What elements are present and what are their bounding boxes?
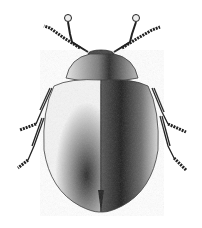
beetle-illustration (0, 0, 202, 228)
antenna-left (44, 15, 88, 53)
stipple-texture (40, 50, 164, 216)
antenna-right (114, 15, 160, 53)
